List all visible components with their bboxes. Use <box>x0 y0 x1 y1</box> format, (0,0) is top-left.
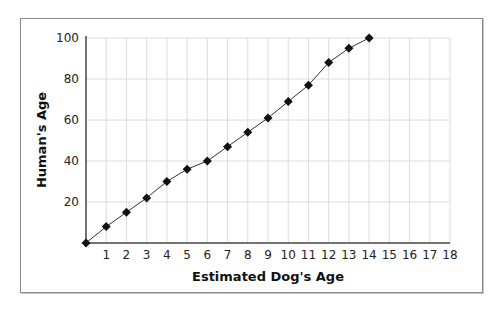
y-tick-label: 80 <box>64 72 79 86</box>
x-tick-label: 6 <box>204 248 212 262</box>
x-tick-label: 17 <box>422 248 437 262</box>
data-point-marker <box>223 142 232 151</box>
grid-lines <box>86 38 450 243</box>
x-tick-label: 5 <box>183 248 191 262</box>
x-tick-label: 16 <box>402 248 417 262</box>
x-tick-label: 11 <box>301 248 316 262</box>
y-tick-label: 40 <box>64 154 79 168</box>
y-tick-label: 60 <box>64 113 79 127</box>
x-tick-label: 3 <box>143 248 151 262</box>
y-tick-labels: 20406080100 <box>56 31 79 209</box>
data-point-marker <box>122 208 131 217</box>
y-tick-label: 20 <box>64 195 79 209</box>
x-tick-label: 1 <box>102 248 110 262</box>
x-tick-label: 15 <box>382 248 397 262</box>
x-tick-label: 9 <box>264 248 272 262</box>
x-tick-label: 7 <box>224 248 232 262</box>
data-point-marker <box>183 165 192 174</box>
x-axis-title: Estimated Dog's Age <box>192 269 344 284</box>
x-tick-label: 10 <box>281 248 296 262</box>
x-tick-label: 18 <box>442 248 457 262</box>
x-tick-label: 14 <box>361 248 376 262</box>
data-point-marker <box>344 44 353 53</box>
data-point-marker <box>243 128 252 137</box>
x-tick-labels: 123456789101112131415161718 <box>102 248 457 262</box>
y-tick-label: 100 <box>56 31 79 45</box>
y-axis-title: Human's Age <box>34 92 49 188</box>
x-tick-label: 8 <box>244 248 252 262</box>
x-tick-label: 13 <box>341 248 356 262</box>
data-point-marker <box>365 34 374 43</box>
data-point-marker <box>203 157 212 166</box>
line-chart: 123456789101112131415161718 20406080100 … <box>0 0 500 314</box>
x-tick-label: 12 <box>321 248 336 262</box>
x-tick-label: 2 <box>123 248 131 262</box>
x-tick-label: 4 <box>163 248 171 262</box>
